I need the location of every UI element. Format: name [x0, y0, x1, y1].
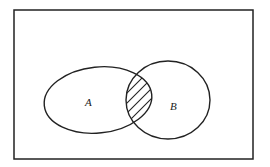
intersection-hatch: [110, 50, 160, 150]
set-b-circle: [126, 61, 210, 139]
set-b-label: B: [170, 100, 177, 112]
set-a-label: A: [84, 96, 92, 108]
venn-diagram: A B: [0, 0, 270, 167]
universe-frame: [14, 10, 253, 159]
